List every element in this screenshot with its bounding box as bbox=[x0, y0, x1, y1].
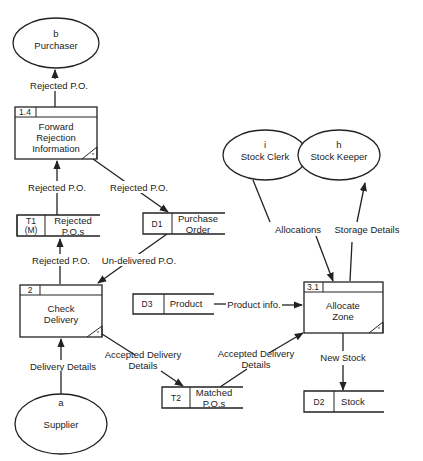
store-d2-stock[interactable]: D2 Stock bbox=[304, 391, 384, 412]
store-label-line1: Stock bbox=[341, 396, 365, 407]
external-stock-keeper[interactable]: h Stock Keeper bbox=[298, 130, 380, 180]
process-label-line1: Check bbox=[48, 303, 75, 314]
label-product-info: Product info. bbox=[227, 299, 280, 310]
store-id: T2 bbox=[171, 393, 181, 403]
external-id: i bbox=[264, 139, 266, 150]
store-id: D3 bbox=[142, 299, 153, 309]
label-undelivered-po: Un-delivered P.O. bbox=[102, 255, 176, 266]
label-accepted-delivery-1: Accepted Delivery bbox=[105, 349, 182, 360]
external-label: Stock Keeper bbox=[310, 151, 367, 162]
external-purchaser[interactable]: b Purchaser bbox=[13, 18, 99, 68]
external-id: b bbox=[53, 28, 58, 39]
label-allocations: Allocations bbox=[275, 224, 321, 235]
process-label-line2: Rejection bbox=[36, 132, 76, 143]
external-label: Supplier bbox=[44, 419, 79, 430]
process-id: 3.1 bbox=[307, 282, 319, 292]
process-label-line3: Information bbox=[32, 143, 80, 154]
store-t1-rejected-pos[interactable]: T1 (M) Rejected P.O.s bbox=[17, 215, 100, 237]
store-d1-purchase-order[interactable]: D1 Purchase Order bbox=[143, 213, 225, 235]
label-new-stock: New Stock bbox=[320, 352, 366, 363]
external-label: Stock Clerk bbox=[241, 151, 290, 162]
store-d3-product[interactable]: D3 Product bbox=[133, 294, 214, 314]
label-rejected-po-to-purchaser: Rejected P.O. bbox=[30, 80, 88, 91]
store-label-line2: P.O.s bbox=[62, 226, 85, 237]
process-2[interactable]: 2 Check Delivery * bbox=[20, 285, 102, 337]
process-id: 2 bbox=[28, 285, 33, 295]
process-label-line2: Delivery bbox=[44, 314, 79, 325]
label-storage-details: Storage Details bbox=[335, 224, 400, 235]
external-supplier[interactable]: a Supplier bbox=[15, 394, 107, 454]
store-label-line1: Rejected bbox=[54, 215, 92, 226]
label-accepted-delivery-1b: Details bbox=[128, 360, 157, 371]
external-id: a bbox=[58, 397, 64, 408]
flow-accepted-delivery-to-t2[interactable] bbox=[161, 371, 183, 386]
process-id: 1.4 bbox=[19, 107, 31, 117]
external-stock-clerk[interactable]: i Stock Clerk bbox=[223, 130, 307, 180]
store-t2-matched-pos[interactable]: T2 Matched P.O.s bbox=[162, 387, 243, 409]
process-label-line1: Forward bbox=[39, 121, 74, 132]
store-label-line1: Matched bbox=[196, 387, 232, 398]
store-label-line2: P.O.s bbox=[203, 398, 226, 409]
store-label-line1: Purchase bbox=[178, 213, 218, 224]
process-label-line1: Allocate bbox=[326, 300, 360, 311]
process-1-4[interactable]: 1.4 Forward Rejection Information * bbox=[15, 107, 97, 159]
process-3-1[interactable]: 3.1 Allocate Zone * bbox=[304, 282, 383, 333]
flow-storage-details[interactable] bbox=[357, 183, 365, 222]
store-id-sub: (M) bbox=[25, 225, 38, 235]
flow-storage-details-segment[interactable] bbox=[350, 242, 352, 281]
flow-accepted-delivery-t2-segment[interactable] bbox=[220, 369, 247, 387]
external-label: Purchaser bbox=[34, 40, 77, 51]
label-delivery-details: Delivery Details bbox=[30, 361, 96, 372]
label-accepted-delivery-2: Accepted Delivery bbox=[218, 348, 295, 359]
store-label-line2: Order bbox=[186, 224, 210, 235]
process-label-line2: Zone bbox=[332, 311, 354, 322]
label-accepted-delivery-2b: Details bbox=[241, 359, 270, 370]
label-rejected-po-2-to-t1: Rejected P.O. bbox=[32, 255, 90, 266]
external-id: h bbox=[336, 139, 341, 150]
label-rejected-po-t1-to-1-4: Rejected P.O. bbox=[28, 182, 86, 193]
data-flow-diagram: Rejected P.O. Rejected P.O. Rejected P.O… bbox=[0, 0, 423, 461]
flow-allocations-segment[interactable] bbox=[253, 180, 270, 222]
store-id: D1 bbox=[152, 219, 163, 229]
store-label-line1: Product bbox=[170, 298, 203, 309]
store-id: D2 bbox=[314, 397, 325, 407]
flow-allocations[interactable] bbox=[316, 236, 333, 281]
label-rejected-po-1-4-to-d1: Rejected P.O. bbox=[110, 182, 168, 193]
